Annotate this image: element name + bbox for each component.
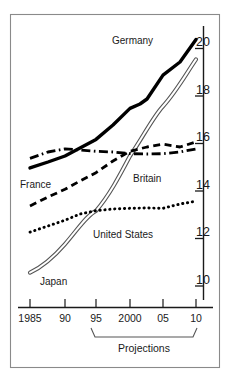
x-axis-labels: 1985 90 95 2000 05 10 <box>18 312 202 324</box>
france-line <box>30 149 196 159</box>
x-label-90: 90 <box>59 312 71 324</box>
series-japan <box>30 59 196 272</box>
united-states-label: United States <box>93 229 153 240</box>
x-axis <box>18 299 213 308</box>
x-label-05: 05 <box>157 312 169 324</box>
y-label-10: 10 <box>196 273 210 287</box>
britain-label: Britain <box>133 173 161 184</box>
y-label-14: 14 <box>196 178 210 192</box>
japan-label: Japan <box>40 276 67 287</box>
x-label-1985: 1985 <box>18 312 42 324</box>
y-axis <box>195 26 204 300</box>
germany-line <box>30 40 196 168</box>
line-chart-svg: 20 18 16 14 12 10 1985 90 95 <box>0 0 231 382</box>
france-label: France <box>20 179 52 190</box>
y-label-12: 12 <box>196 225 210 239</box>
projections-label: Projections <box>118 342 170 354</box>
projections-bracket-path <box>91 328 197 337</box>
germany-label: Germany <box>112 35 153 46</box>
x-label-10: 10 <box>190 312 202 324</box>
series-annotations: Germany France Britain United States Jap… <box>20 35 161 287</box>
japan-line-outer <box>30 59 196 272</box>
x-label-95: 95 <box>90 312 102 324</box>
chart-figure: 20 18 16 14 12 10 1985 90 95 <box>0 0 231 382</box>
y-label-20: 20 <box>196 35 210 49</box>
projections-bracket: Projections <box>91 328 197 354</box>
x-label-2000: 2000 <box>118 312 142 324</box>
japan-line-inner <box>30 59 196 272</box>
united-states-line <box>30 201 196 232</box>
chart-border <box>11 15 220 368</box>
y-label-18: 18 <box>196 83 210 97</box>
y-label-16: 16 <box>196 130 210 144</box>
